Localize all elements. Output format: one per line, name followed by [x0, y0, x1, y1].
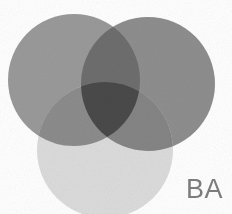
- logo-canvas: BA: [0, 0, 232, 214]
- brand-wordmark: BA: [186, 176, 232, 203]
